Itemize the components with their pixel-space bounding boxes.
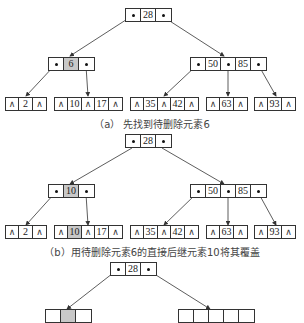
pointer-dot-icon: [197, 63, 200, 66]
leaf-node: ∧ 10 ∧ 17 ∧: [54, 97, 123, 111]
key-cell: [224, 310, 239, 322]
pointer-cell: [209, 310, 224, 322]
root-node: 28: [125, 8, 172, 22]
pointer-cell: [251, 58, 266, 70]
root-node: 28: [110, 262, 157, 276]
null-pointer-icon: ∧: [255, 226, 268, 238]
pointer-cell: [141, 263, 156, 275]
pointer-cell: [111, 263, 126, 275]
pointer-dot-icon: [132, 140, 135, 143]
pointer-dot-icon: [227, 190, 230, 193]
leaf-node: ∧ 35 ∧ 42 ∧: [130, 225, 199, 239]
internal-node-right: 50 85: [190, 184, 267, 198]
key-cell: 93: [268, 98, 282, 110]
key-cell: 42: [171, 98, 185, 110]
null-pointer-icon: ∧: [185, 226, 198, 238]
pointer-cell: [221, 185, 236, 197]
null-pointer-icon: ∧: [158, 98, 171, 110]
pointer-dot-icon: [55, 63, 58, 66]
key-cell-highlighted: [61, 310, 76, 322]
leaf-node: ∧ 35 ∧ 42 ∧: [130, 97, 199, 111]
key-cell: 63: [220, 226, 234, 238]
key-cell: 93: [268, 226, 282, 238]
key-cell: 85: [236, 185, 251, 197]
pointer-cell: [49, 185, 64, 197]
key-cell: 17: [95, 226, 109, 238]
panel-b-caption: （b）用待删除元素6的直接后继元素10将其覆盖: [0, 244, 304, 259]
pointer-cell: [156, 9, 171, 21]
key-cell-highlighted: 10: [68, 226, 82, 238]
null-pointer-icon: ∧: [82, 226, 95, 238]
internal-node-right: 50 85: [190, 57, 267, 71]
pointer-dot-icon: [162, 140, 165, 143]
key-cell: 35: [144, 226, 158, 238]
pointer-cell: [191, 58, 206, 70]
null-pointer-icon: ∧: [55, 226, 68, 238]
null-pointer-icon: ∧: [55, 98, 68, 110]
key-cell: 85: [236, 58, 251, 70]
pointer-dot-icon: [85, 190, 88, 193]
panel-a-caption: （a） 先找到待删除元素6: [0, 116, 304, 131]
key-cell: 28: [141, 9, 156, 21]
null-pointer-icon: ∧: [82, 98, 95, 110]
pointer-cell: [156, 135, 171, 147]
internal-node-left-partial: [45, 309, 92, 323]
pointer-dot-icon: [85, 63, 88, 66]
pointer-dot-icon: [257, 190, 260, 193]
null-pointer-icon: ∧: [234, 98, 247, 110]
key-cell: 28: [141, 135, 156, 147]
null-pointer-icon: ∧: [255, 98, 268, 110]
key-cell-highlighted: 6: [64, 58, 79, 70]
key-cell: 50: [206, 185, 221, 197]
null-pointer-icon: ∧: [33, 98, 46, 110]
pointer-dot-icon: [55, 190, 58, 193]
leaf-node: ∧ 63 ∧: [206, 225, 248, 239]
pointer-dot-icon: [257, 63, 260, 66]
internal-node-left: 6: [48, 57, 95, 71]
null-pointer-icon: ∧: [33, 226, 46, 238]
pointer-cell: [126, 9, 141, 21]
null-pointer-icon: ∧: [131, 98, 144, 110]
key-cell: 35: [144, 98, 158, 110]
null-pointer-icon: ∧: [234, 226, 247, 238]
null-pointer-icon: ∧: [109, 98, 122, 110]
root-node: 28: [125, 134, 172, 148]
null-pointer-icon: ∧: [282, 98, 295, 110]
pointer-dot-icon: [132, 14, 135, 17]
key-cell: 42: [171, 226, 185, 238]
pointer-dot-icon: [197, 190, 200, 193]
pointer-cell: [221, 58, 236, 70]
leaf-node: ∧ 2 ∧: [5, 97, 47, 111]
pointer-cell: [251, 185, 266, 197]
internal-node-left: 10: [48, 184, 95, 198]
null-pointer-icon: ∧: [282, 226, 295, 238]
null-pointer-icon: ∧: [185, 98, 198, 110]
leaf-node: ∧ 10 ∧ 17 ∧: [54, 225, 123, 239]
key-cell-highlighted: 10: [64, 185, 79, 197]
key-cell: [194, 310, 209, 322]
key-cell: 28: [126, 263, 141, 275]
pointer-cell: [79, 58, 94, 70]
key-cell: 2: [19, 226, 33, 238]
key-cell: 17: [95, 98, 109, 110]
leaf-node: ∧ 2 ∧: [5, 225, 47, 239]
pointer-cell: [79, 185, 94, 197]
pointer-cell: [239, 310, 254, 322]
null-pointer-icon: ∧: [6, 226, 19, 238]
pointer-dot-icon: [227, 63, 230, 66]
internal-node-right-partial: [178, 309, 255, 323]
null-pointer-icon: ∧: [207, 226, 220, 238]
pointer-dot-icon: [147, 268, 150, 271]
pointer-dot-icon: [117, 268, 120, 271]
key-cell: 50: [206, 58, 221, 70]
null-pointer-icon: ∧: [207, 98, 220, 110]
null-pointer-icon: ∧: [6, 98, 19, 110]
key-cell: 10: [68, 98, 82, 110]
null-pointer-icon: ∧: [131, 226, 144, 238]
pointer-cell: [76, 310, 91, 322]
pointer-cell: [49, 58, 64, 70]
pointer-cell: [179, 310, 194, 322]
key-cell: 63: [220, 98, 234, 110]
pointer-cell: [126, 135, 141, 147]
